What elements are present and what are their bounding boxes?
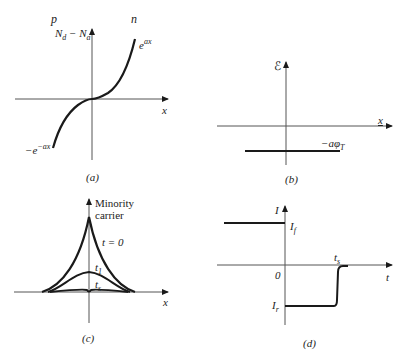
panel-d-caption: (d) [303, 338, 316, 349]
a-pos-sup: ax [144, 37, 152, 46]
figure-canvas [0, 0, 402, 356]
panel-c-curve-label-t0: t = 0 [102, 237, 123, 248]
panel-c-y-axis-label-line1: Minority [95, 198, 134, 209]
a-neg-base: −e [25, 144, 37, 156]
panel-c-caption: (c) [82, 333, 94, 344]
panel-d-forward-current-label: If [290, 221, 296, 232]
panel-d-y-axis-label: I [275, 205, 279, 216]
panel-c-x-axis-label: x [163, 297, 168, 308]
panel-a-positive-curve-label: eax [139, 40, 151, 51]
panel-a-x-axis-label: x [162, 105, 167, 116]
panel-b-y-axis-label: ℰ [274, 60, 281, 72]
panel-b-level-label: −aφT [321, 138, 344, 149]
panel-c-curve-label-ts: ts [95, 279, 101, 290]
panel-a-n-region-label: n [131, 13, 137, 25]
panel-d-current-transient [217, 206, 392, 325]
b-level-base: −aφ [321, 137, 340, 149]
d-ir-sub: r [276, 305, 279, 314]
c-t1-sub: 1 [98, 267, 102, 276]
a-ylabel-minus-n: − N [66, 27, 86, 39]
panel-b-caption: (b) [285, 174, 298, 185]
a-ylabel-sub-a: a [87, 33, 91, 42]
b-level-sub: T [340, 143, 344, 152]
panel-b-electric-field [217, 62, 392, 165]
panel-d-reverse-current [285, 266, 348, 306]
panel-d-origin-label: 0 [275, 270, 281, 281]
panel-a-y-axis-label: Nd − Na [55, 28, 91, 39]
panel-c-minority-carrier [14, 199, 168, 323]
panel-a-negative-curve-label: −e−ax [25, 145, 50, 156]
panel-c-curve-label-t1: t1 [95, 262, 102, 273]
a-neg-sup: −ax [37, 142, 50, 151]
panel-a-caption: (a) [86, 172, 99, 183]
panel-d-x-axis-label: t [386, 272, 389, 283]
d-if-sub: f [294, 226, 296, 235]
panel-d-storage-time-label: ts [334, 252, 340, 263]
c-ts-sub: s [98, 284, 101, 293]
panel-a-p-region-label: p [51, 13, 57, 25]
panel-a-exponential-curve [53, 39, 135, 148]
panel-c-y-axis-label-line2: carrier [95, 210, 124, 221]
d-ts-sub: s [337, 257, 340, 266]
panel-b-x-axis-label: x [378, 115, 383, 126]
panel-d-reverse-current-label: Ir [272, 300, 279, 311]
